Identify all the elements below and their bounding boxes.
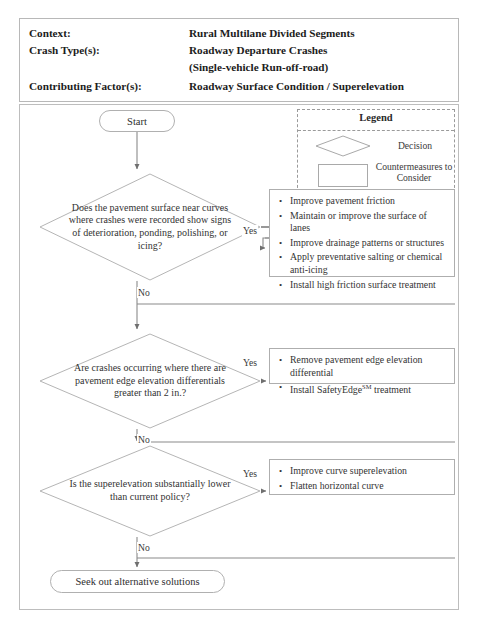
header-row: (Single-vehicle Run-off-road) xyxy=(20,59,458,76)
flowchart-page: Context: Rural Multilane Divided Segment… xyxy=(0,0,479,628)
list-item: Apply preventative salting or chemical a… xyxy=(290,251,448,276)
decision-node-3: Is the superelevation substantially lowe… xyxy=(39,445,261,537)
countermeasure-shape-icon xyxy=(318,164,368,187)
header-value: Roadway Surface Condition / Superelevati… xyxy=(189,78,404,95)
header-row: Contributing Factor(s): Roadway Surface … xyxy=(20,78,458,95)
header-row: Crash Type(s): Roadway Departure Crashes xyxy=(20,42,458,59)
countermeasure-box-1: Improve pavement friction Maintain or im… xyxy=(269,189,455,277)
legend-title: Legend xyxy=(298,112,454,123)
branch-label-yes-3: Yes xyxy=(242,468,258,479)
branch-label-no-2: No xyxy=(137,434,151,445)
end-node: Seek out alternative solutions xyxy=(50,570,225,593)
decision-node-1: Does the pavement surface near curves wh… xyxy=(39,173,261,281)
countermeasure-list: Improve curve superelevation Flatten hor… xyxy=(274,465,448,492)
decision-node-1-text: Does the pavement surface near curves wh… xyxy=(66,173,235,281)
decision-shape-icon xyxy=(315,135,371,157)
context-header-table: Context: Rural Multilane Divided Segment… xyxy=(19,18,459,102)
header-label: Contributing Factor(s): xyxy=(29,78,142,95)
header-row: Context: Rural Multilane Divided Segment… xyxy=(20,25,458,42)
header-value: (Single-vehicle Run-off-road) xyxy=(189,59,328,76)
branch-label-yes-2: Yes xyxy=(242,357,258,368)
branch-label-no-1: No xyxy=(137,287,151,298)
legend-divider xyxy=(298,130,454,131)
start-node: Start xyxy=(99,110,175,132)
list-item: Flatten horizontal curve xyxy=(290,480,448,493)
decision-node-3-text: Is the superelevation substantially lowe… xyxy=(66,445,235,537)
countermeasure-box-3: Improve curve superelevation Flatten hor… xyxy=(269,459,455,495)
countermeasure-box-2: Remove pavement edge elevation different… xyxy=(269,348,455,384)
decision-node-2: Are crashes occurring where there are pa… xyxy=(39,333,261,429)
header-label: Context: xyxy=(29,25,71,42)
list-item: Remove pavement edge elevation different… xyxy=(290,354,448,379)
end-node-label: Seek out alternative solutions xyxy=(76,576,200,587)
flowchart-frame: Legend Decision Countermeasures to Consi… xyxy=(19,104,459,610)
branch-label-yes-1: Yes xyxy=(242,225,258,236)
list-item: Improve drainage patterns or structures xyxy=(290,237,448,250)
start-node-label: Start xyxy=(127,116,147,127)
countermeasure-list: Improve pavement friction Maintain or im… xyxy=(274,195,448,291)
legend-decision-label: Decision xyxy=(378,140,452,151)
countermeasure-list: Remove pavement edge elevation different… xyxy=(274,354,448,397)
header-value: Rural Multilane Divided Segments xyxy=(189,25,355,42)
list-item: Install high friction surface treatment xyxy=(290,279,448,292)
list-item: Improve pavement friction xyxy=(290,195,448,208)
legend-countermeasure-label: Countermeasures to Consider xyxy=(374,161,454,183)
decision-node-2-text: Are crashes occurring where there are pa… xyxy=(66,333,235,429)
header-label: Crash Type(s): xyxy=(29,42,100,59)
legend: Legend Decision Countermeasures to Consi… xyxy=(297,109,455,193)
list-item: Maintain or improve the surface of lanes xyxy=(290,210,448,235)
list-item: Install SafetyEdgeSM treatment xyxy=(290,381,448,397)
branch-label-no-3: No xyxy=(137,542,151,553)
list-item: Improve curve superelevation xyxy=(290,465,448,478)
header-value: Roadway Departure Crashes xyxy=(189,42,327,59)
